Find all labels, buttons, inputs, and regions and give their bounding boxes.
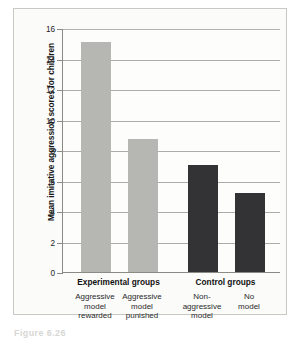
bar bbox=[188, 165, 218, 272]
group-heading: Control groups bbox=[166, 277, 286, 287]
y-axis-tick-label: 10 bbox=[46, 116, 55, 125]
y-axis-tick-label: 4 bbox=[50, 208, 55, 217]
chart-panel: Mean imitative aggression scores for chi… bbox=[13, 8, 287, 315]
figure-caption: Figure 6.26 bbox=[14, 328, 66, 338]
y-axis-tick-label: 14 bbox=[46, 55, 55, 64]
category-label: Aggressivemodelpunished bbox=[115, 292, 169, 321]
category-label-line: No bbox=[244, 292, 254, 301]
category-label-line: model bbox=[84, 302, 106, 311]
y-axis-tick bbox=[57, 273, 63, 274]
bars-layer bbox=[63, 29, 280, 272]
y-axis-tick-label: 16 bbox=[46, 25, 55, 34]
figure-container: Mean imitative aggression scores for chi… bbox=[0, 0, 300, 347]
y-axis-tick-label: 8 bbox=[50, 147, 55, 156]
category-label-line: Aggressive bbox=[75, 292, 115, 301]
category-label: Nomodel bbox=[222, 292, 276, 311]
y-axis-tick-label: 6 bbox=[50, 177, 55, 186]
bar bbox=[128, 139, 158, 272]
plot-area: 0246810121416 bbox=[62, 29, 280, 273]
category-label-line: Aggressive bbox=[122, 292, 162, 301]
y-axis-tick-label: 2 bbox=[50, 238, 55, 247]
category-label-line: model bbox=[191, 311, 213, 320]
bar bbox=[81, 42, 111, 272]
category-label-line: model bbox=[238, 302, 260, 311]
y-axis-tick-label: 0 bbox=[50, 269, 55, 278]
category-label: Non-aggressivemodel bbox=[175, 292, 229, 321]
category-label-line: rewarded bbox=[78, 311, 111, 320]
category-label-line: Non- bbox=[193, 292, 210, 301]
category-label-line: punished bbox=[126, 311, 158, 320]
category-labels: Experimental groupsAggressivemodelreward… bbox=[62, 277, 280, 335]
category-label-line: aggressive bbox=[183, 302, 222, 311]
y-axis-tick-label: 12 bbox=[46, 86, 55, 95]
category-label: Aggressivemodelrewarded bbox=[68, 292, 122, 321]
bar bbox=[235, 193, 265, 272]
group-heading: Experimental groups bbox=[59, 277, 179, 287]
category-label-line: model bbox=[131, 302, 153, 311]
